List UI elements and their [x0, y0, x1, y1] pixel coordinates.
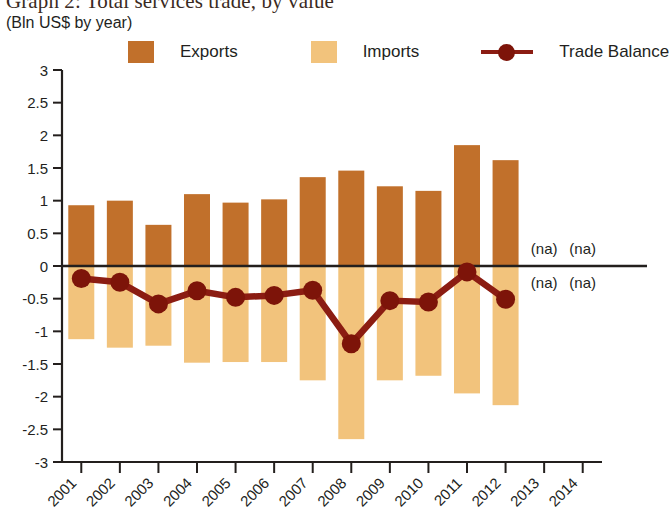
trade-balance-marker [380, 291, 399, 310]
x-axis-tick-label: 2011 [430, 474, 465, 509]
exports-bar [493, 160, 519, 266]
y-axis-tick-label: -2 [35, 388, 48, 405]
trade-balance-marker [149, 294, 168, 313]
y-axis-tick-label: -2.5 [22, 421, 48, 438]
y-axis-tick-label: 1.5 [27, 160, 48, 177]
imports-bar [184, 266, 210, 363]
exports-bar [454, 145, 480, 266]
exports-bar [184, 194, 210, 266]
y-axis-tick-label: -3 [35, 454, 48, 471]
trade-balance-marker [303, 281, 322, 300]
exports-bar [338, 171, 364, 266]
trade-balance-marker [110, 273, 129, 292]
x-axis-tick-label: 2010 [391, 474, 427, 510]
exports-bar [223, 203, 249, 266]
exports-bar [300, 177, 326, 266]
na-annotation-label: (na) [569, 240, 596, 257]
trade-balance-marker [496, 290, 515, 309]
x-axis-tick-label: 2005 [198, 474, 234, 510]
trade-balance-markers-group [72, 262, 515, 353]
imports-bar [415, 266, 441, 376]
y-axis-tick-label: -1.5 [22, 356, 48, 373]
exports-bars-group [68, 145, 518, 266]
y-axis-tick-label: 1 [40, 192, 48, 209]
trade-balance-marker [226, 288, 245, 307]
na-annotation-label: (na) [531, 240, 558, 257]
trade-balance-marker [188, 281, 207, 300]
trade-balance-marker [458, 262, 477, 281]
exports-bar [145, 225, 171, 266]
trade-balance-line-group [81, 272, 505, 344]
y-axis-tick-label: 0 [40, 258, 48, 275]
exports-bar [377, 186, 403, 266]
exports-bar [107, 201, 133, 266]
na-annotation-label: (na) [531, 274, 558, 291]
imports-bar [261, 266, 287, 362]
x-axis-tick-label: 2002 [82, 474, 118, 510]
exports-bar [68, 205, 94, 266]
exports-bar [415, 191, 441, 266]
x-axis-tick-label: 2012 [468, 474, 504, 510]
y-axis-tick-label: 2.5 [27, 94, 48, 111]
trade-balance-marker [265, 286, 284, 305]
x-axis-labels-group: 2001200220032004200520062007200820092010… [44, 474, 581, 510]
trade-balance-line [81, 272, 505, 344]
x-axis-tick-label: 2004 [160, 474, 196, 510]
x-axis-tick-label: 2014 [545, 474, 581, 510]
x-axis-tick-label: 2008 [314, 474, 350, 510]
x-axis-ticks-group [81, 462, 582, 473]
y-axis-tick-label: 2 [40, 127, 48, 144]
x-axis-tick-label: 2013 [507, 474, 543, 510]
y-axis-tick-label: 3 [40, 62, 48, 79]
imports-bar [493, 266, 519, 405]
exports-bar [261, 199, 287, 266]
y-axis-ticks-group: 32.521.510.50-0.5-1-1.5-2-2.5-3 [22, 62, 62, 471]
y-axis-tick-label: -1 [35, 323, 48, 340]
x-axis-tick-label: 2009 [352, 474, 388, 510]
y-axis-tick-label: 0.5 [27, 225, 48, 242]
y-axis-tick-label: -0.5 [22, 290, 48, 307]
x-axis-tick-label: 2001 [44, 474, 80, 510]
na-annotation-label: (na) [569, 274, 596, 291]
trade-balance-marker [342, 334, 361, 353]
x-axis-tick-label: 2006 [237, 474, 273, 510]
trade-balance-marker [419, 292, 438, 311]
x-axis-tick-label: 2007 [275, 474, 311, 510]
imports-bar [223, 266, 249, 362]
x-axis-tick-label: 2003 [121, 474, 157, 510]
imports-bar [377, 266, 403, 380]
imports-bar [454, 266, 480, 393]
trade-balance-marker [72, 269, 91, 288]
